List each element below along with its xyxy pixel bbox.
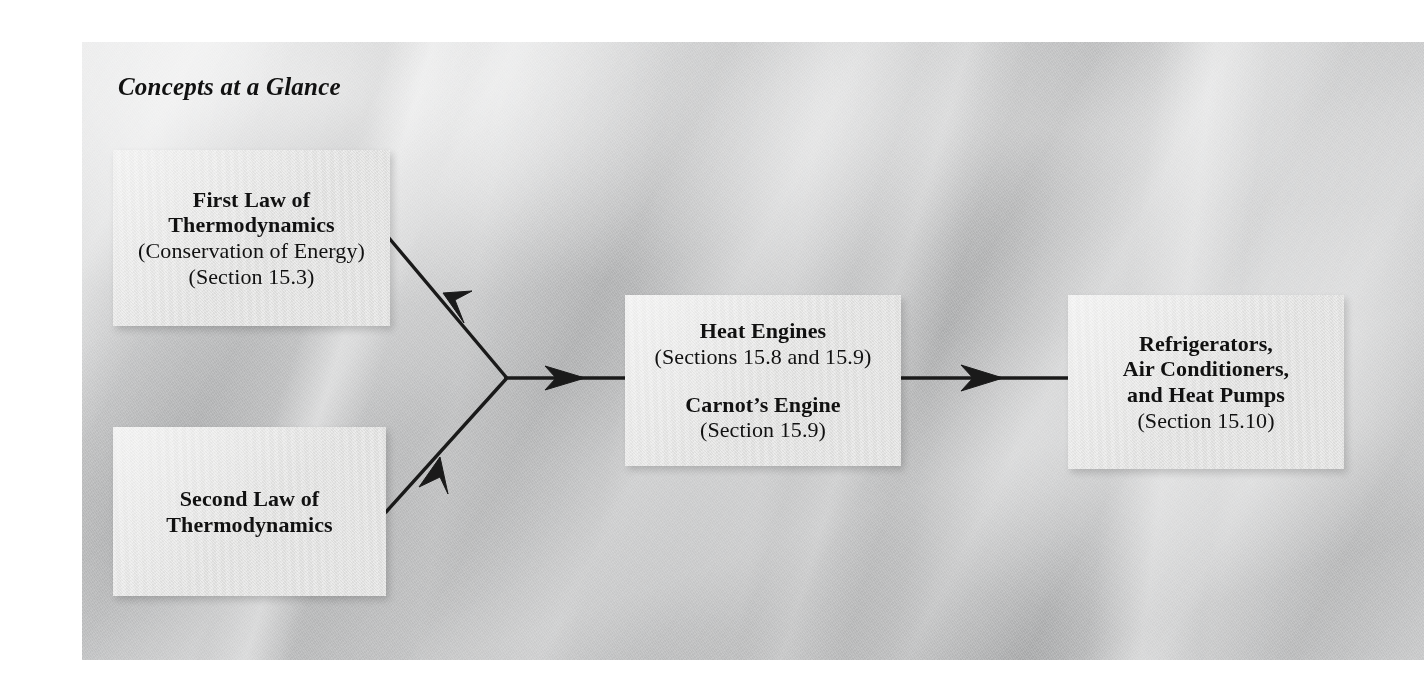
first-law-line-2: Thermodynamics [168,212,334,238]
carnot-engine-line-1: Carnot’s Engine [685,392,840,418]
first-law-text-group: First Law of Thermodynamics (Conservatio… [138,187,365,289]
refrigerators-line-4: (Section 15.10) [1137,408,1274,434]
refrigerators-text-group: Refrigerators, Air Conditioners, and Hea… [1123,331,1289,433]
concept-box-second-law: Second Law of Thermodynamics [113,427,386,596]
first-law-line-1: First Law of [193,187,310,213]
second-law-line-2: Thermodynamics [166,512,332,538]
second-law-text-group: Second Law of Thermodynamics [166,486,332,537]
refrigerators-line-1: Refrigerators, [1139,331,1273,357]
refrigerators-line-3: and Heat Pumps [1127,382,1285,408]
concept-box-first-law: First Law of Thermodynamics (Conservatio… [113,150,390,326]
figure-root: Concepts at a Glance [0,0,1424,677]
concept-box-heat-engines: Heat Engines (Sections 15.8 and 15.9) Ca… [625,295,901,466]
refrigerators-line-2: Air Conditioners, [1123,356,1289,382]
carnot-engine-line-2: (Section 15.9) [700,417,826,443]
first-law-line-3: (Conservation of Energy) [138,238,365,264]
heat-engines-line-2: (Sections 15.8 and 15.9) [655,344,872,370]
concept-box-refrigerators: Refrigerators, Air Conditioners, and Hea… [1068,295,1344,469]
heat-engines-text-group: Heat Engines (Sections 15.8 and 15.9) [655,318,872,369]
carnot-engine-text-group: Carnot’s Engine (Section 15.9) [685,392,840,443]
heat-engines-line-1: Heat Engines [700,318,827,344]
second-law-line-1: Second Law of [180,486,319,512]
page-title: Concepts at a Glance [118,73,341,101]
first-law-line-4: (Section 15.3) [188,264,314,290]
